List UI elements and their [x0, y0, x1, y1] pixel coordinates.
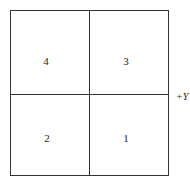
- quadrant-label-1: 1: [123, 132, 129, 144]
- quadrant-label-2: 2: [44, 132, 50, 144]
- vertical-divider: [89, 11, 90, 175]
- quadrant-label-4: 4: [43, 55, 49, 67]
- quadrant-grid: 4 3 2 1: [10, 10, 169, 176]
- horizontal-divider: [11, 94, 168, 95]
- quadrant-label-3: 3: [123, 55, 129, 67]
- axis-label-plus-y: +Y: [176, 91, 188, 102]
